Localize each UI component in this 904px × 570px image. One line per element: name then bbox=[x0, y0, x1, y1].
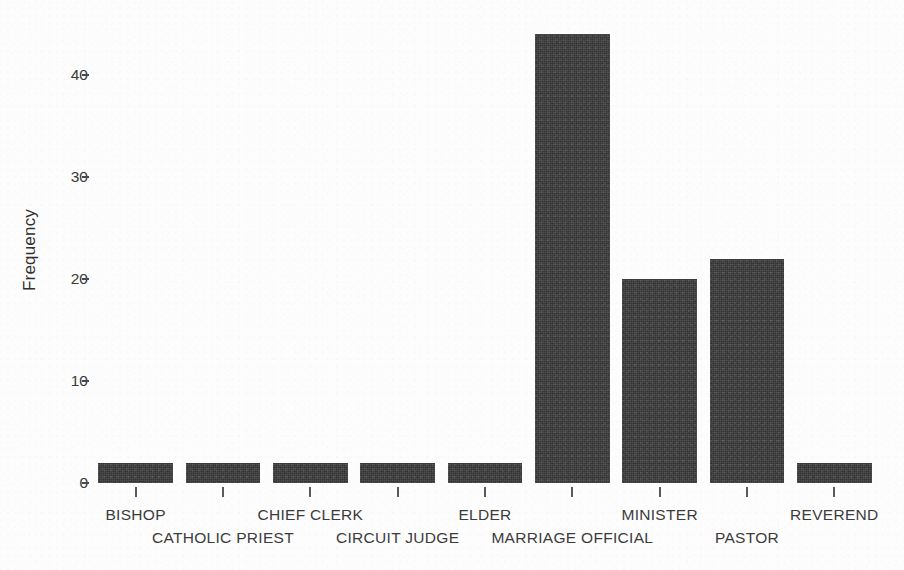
bar-chart-figure: Frequency BISHOPCATHOLIC PRIESTCHIEF CLE… bbox=[0, 0, 904, 570]
y-axis-tick-mark bbox=[82, 482, 89, 484]
x-axis-tick-mark bbox=[222, 487, 224, 497]
x-axis-labels: BISHOPCATHOLIC PRIESTCHIEF CLERKCIRCUIT … bbox=[0, 500, 904, 562]
y-axis-tick-mark bbox=[82, 380, 89, 382]
x-axis-tick-mark bbox=[746, 487, 748, 497]
x-axis-tick-mark bbox=[397, 487, 399, 497]
x-axis-tick-label: REVEREND bbox=[790, 506, 879, 524]
bar bbox=[710, 259, 785, 483]
x-axis-tick-mark bbox=[135, 487, 137, 497]
x-axis-tick-label: MINISTER bbox=[621, 506, 697, 524]
x-axis-tick-mark bbox=[309, 487, 311, 497]
x-axis-tick-label: CHIEF CLERK bbox=[257, 506, 363, 524]
bar bbox=[622, 279, 697, 483]
bar bbox=[535, 34, 610, 483]
y-axis-tick-mark bbox=[82, 278, 89, 280]
x-axis-tick-label: PASTOR bbox=[715, 529, 779, 547]
x-axis-tick-mark bbox=[659, 487, 661, 497]
y-axis-tick-mark bbox=[82, 74, 89, 76]
x-axis-tick-mark bbox=[833, 487, 835, 497]
y-axis-title: Frequency bbox=[10, 0, 50, 500]
x-axis-ticks bbox=[92, 487, 878, 499]
bar bbox=[360, 463, 435, 483]
x-axis-tick-label: CATHOLIC PRIEST bbox=[152, 529, 294, 547]
plot-area bbox=[92, 14, 878, 483]
x-axis-tick-label: BISHOP bbox=[105, 506, 165, 524]
bar bbox=[797, 463, 872, 483]
bar bbox=[186, 463, 261, 483]
x-axis-tick-label: ELDER bbox=[458, 506, 511, 524]
bar bbox=[273, 463, 348, 483]
y-axis-title-text: Frequency bbox=[20, 209, 40, 291]
x-axis-tick-mark bbox=[571, 487, 573, 497]
x-axis-tick-mark bbox=[484, 487, 486, 497]
bar bbox=[448, 463, 523, 483]
x-axis-tick-label: CIRCUIT JUDGE bbox=[336, 529, 459, 547]
bar bbox=[98, 463, 173, 483]
x-axis-tick-label: MARRIAGE OFFICIAL bbox=[491, 529, 653, 547]
y-axis-tick-mark bbox=[82, 176, 89, 178]
